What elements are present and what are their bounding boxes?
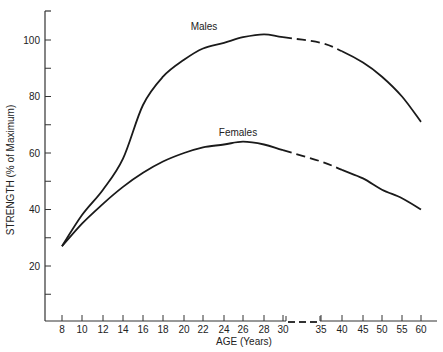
axes: 2040608010081012141618202224262830354045… [23,11,437,335]
y-tick-label: 80 [29,91,41,102]
x-tick-label: 28 [258,324,270,335]
x-tick-label: 55 [396,324,408,335]
series-line-females-late [342,170,421,210]
x-tick-label: 45 [357,324,369,335]
x-tick-label: 50 [376,324,388,335]
x-tick-label: 20 [178,324,190,335]
y-tick-label: 40 [29,204,41,215]
x-tick-label: 8 [59,324,65,335]
x-tick-label: 10 [76,324,88,335]
x-tick-label: 35 [315,324,327,335]
series-label-males: Males [191,21,218,32]
x-tick-label: 12 [97,324,109,335]
x-tick-label: 24 [218,324,230,335]
chart-canvas: 2040608010081012141618202224262830354045… [0,0,443,352]
y-tick-label: 60 [29,148,41,159]
series-line-males [62,34,283,246]
y-tick-label: 100 [23,35,40,46]
series-line-males-late [342,51,421,122]
series-label-females: Females [219,127,257,138]
x-tick-label: 30 [277,324,289,335]
series-lines [62,34,421,246]
x-tick-label: 40 [336,324,348,335]
x-tick-label: 60 [415,324,427,335]
y-axis-title: STRENGTH (% of Maximum) [5,105,16,236]
series-line-females [62,142,283,247]
x-tick-label: 22 [197,324,209,335]
y-tick-label: 20 [29,261,41,272]
x-tick-label: 14 [117,324,129,335]
strength-by-age-chart: 2040608010081012141618202224262830354045… [0,0,443,352]
x-tick-label: 18 [157,324,169,335]
x-tick-label: 26 [237,324,249,335]
x-tick-label: 16 [137,324,149,335]
series-line-males-dashed [283,37,342,51]
series-line-females-dashed [283,150,342,170]
x-axis-title: AGE (Years) [216,336,272,347]
